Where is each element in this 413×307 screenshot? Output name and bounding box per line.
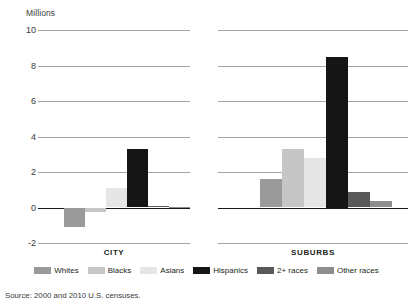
panel-city: [38, 30, 190, 243]
y-tick-8: 8: [12, 61, 36, 71]
bar-city-hispanics: [127, 149, 148, 208]
source-note: Source: 2000 and 2010 U.S. censuses.: [5, 291, 141, 300]
y-axis-tick-labels: 1086420-2: [12, 30, 36, 243]
legend-item-2-races: 2+ races: [257, 266, 308, 275]
legend-label: Asians: [160, 266, 184, 275]
bar-suburbs-2-races: [348, 192, 370, 207]
bars-city: [38, 30, 190, 243]
bar-suburbs-asians: [304, 158, 326, 208]
bar-city-asians: [106, 188, 127, 208]
legend-swatch-icon: [34, 267, 51, 274]
chart-legend: WhitesBlacksAsiansHispanics2+ racesOther…: [0, 266, 413, 275]
bar-city-blacks: [85, 208, 106, 212]
bar-suburbs-blacks: [282, 149, 304, 208]
legend-item-other-races: Other races: [317, 266, 379, 275]
bar-city-2-races: [148, 206, 169, 207]
y-tick-10: 10: [12, 25, 36, 35]
legend-swatch-icon: [140, 267, 157, 274]
legend-swatch-icon: [193, 267, 210, 274]
y-tick-0: 0: [12, 203, 36, 213]
y-tick-4: 4: [12, 132, 36, 142]
legend-label: Blacks: [108, 266, 132, 275]
y-tick-6: 6: [12, 96, 36, 106]
chart-figure: Millions 1086420-2 CITY SUBURBS WhitesBl…: [0, 0, 413, 307]
panel-title-city: CITY: [38, 248, 190, 257]
gridline-neg2: [218, 243, 408, 244]
legend-item-hispanics: Hispanics: [193, 266, 248, 275]
legend-item-asians: Asians: [140, 266, 184, 275]
legend-label: Whites: [54, 266, 78, 275]
legend-swatch-icon: [257, 267, 274, 274]
gridline-neg2: [38, 243, 190, 244]
y-tick-2: 2: [12, 167, 36, 177]
legend-label: Other races: [337, 266, 379, 275]
legend-swatch-icon: [317, 267, 334, 274]
bar-suburbs-hispanics: [326, 57, 348, 208]
bar-suburbs-other-races: [370, 201, 392, 207]
bar-city-whites: [64, 208, 85, 228]
legend-label: Hispanics: [213, 266, 248, 275]
bar-city-other-races: [169, 207, 190, 208]
bar-suburbs-whites: [260, 179, 282, 207]
legend-swatch-icon: [88, 267, 105, 274]
panel-title-suburbs: SUBURBS: [218, 248, 408, 257]
bars-suburbs: [218, 30, 408, 243]
legend-item-blacks: Blacks: [88, 266, 132, 275]
y-tick-neg2: -2: [12, 238, 36, 248]
panel-suburbs: [218, 30, 408, 243]
legend-label: 2+ races: [277, 266, 308, 275]
legend-item-whites: Whites: [34, 266, 78, 275]
y-axis-unit-label: Millions: [26, 8, 55, 18]
